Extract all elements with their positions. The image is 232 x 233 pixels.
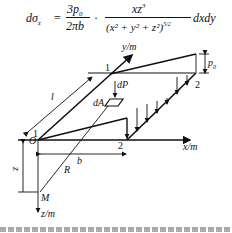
z-dim-label: z [11,167,21,171]
l-label: l [51,92,54,102]
y-axis-label: y/m [122,42,136,52]
dP-label: dP [117,80,128,90]
origin-label: O [29,136,36,146]
R-label: R [64,165,70,175]
corner-label-1-top: 1 [105,63,110,73]
x-axis-label: x/m [183,142,197,152]
p0-label: p0 [208,58,216,70]
corner-label-2-bottom: 2 [118,141,123,151]
z-axis-label: z/m [41,209,55,219]
corner-label-2-right: 2 [195,80,200,90]
cut-off-caption [0,226,232,233]
stress-diagram: dσz = 3p0 2πb · xz3 (x² + y² + z²)5/2 dx… [0,0,232,233]
dA-label: dA [93,98,104,108]
diagram-lines [0,0,232,233]
M-label: M [41,193,49,203]
b-label: b [77,156,82,166]
